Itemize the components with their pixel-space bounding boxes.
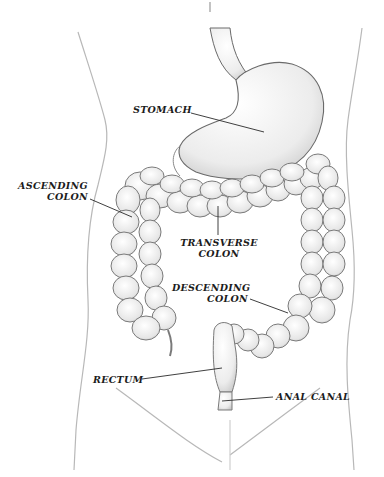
label-descending-colon: DESCENDING COLON [172,282,248,304]
label-rectum-line-1: RECTUM [93,374,143,385]
label-ascending-colon-line-1: ASCENDING [18,180,88,191]
label-descending-colon-line-1: DESCENDING [172,282,248,293]
label-ascending-colon: ASCENDING COLON [18,180,88,202]
label-transverse-colon: TRANSVERSE COLON [180,237,258,259]
label-descending-colon-line-2: COLON [172,293,248,304]
label-ascending-colon-line-2: COLON [18,191,88,202]
label-stomach-line-1: STOMACH [133,104,192,115]
label-transverse-colon-line-2: COLON [180,248,258,259]
label-rectum: RECTUM [93,374,143,385]
leader-line-descending-colon [250,299,288,313]
leader-line-rectum [142,368,222,379]
label-stomach: STOMACH [133,104,192,115]
label-anal-canal-line-1: ANAL CANAL [276,391,350,402]
ascending-colon-segments [111,186,176,340]
label-anal-canal: ANAL CANAL [276,391,350,402]
label-transverse-colon-line-1: TRANSVERSE [180,237,258,248]
rectum-organ [213,323,237,392]
stomach-organ [173,62,323,179]
